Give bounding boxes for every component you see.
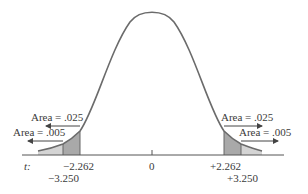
right-outer-area-label: Area = .005: [239, 127, 291, 138]
t-distribution-figure: Area = .025 Area = .005 Area = .025 Area…: [0, 0, 308, 194]
left-outer-cut-label: −3.250: [48, 173, 79, 184]
left-inner-cut-label: −2.262: [63, 161, 94, 172]
right-inner-area-label: Area = .025: [221, 112, 273, 123]
left-inner-area-label: Area = .025: [31, 112, 83, 123]
density-curve: [38, 12, 262, 151]
right-outer-cut-label: +3.250: [227, 173, 258, 184]
center-label: 0: [149, 161, 155, 172]
left-outer-area-label: Area = .005: [13, 127, 65, 138]
right-inner-cut-label: +2.262: [210, 161, 241, 172]
axis-label-t: t:: [24, 161, 31, 172]
